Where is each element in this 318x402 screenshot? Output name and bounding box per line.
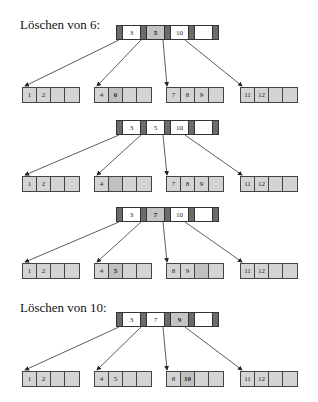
leaf-key: [137, 264, 151, 278]
leaf-key: 9: [195, 177, 209, 191]
leaf-key: [209, 372, 223, 386]
edge-arrow: [185, 222, 242, 262]
leaf-key: 1: [23, 372, 37, 386]
root-key: 9: [171, 313, 188, 326]
root-key: [195, 208, 212, 221]
leaf-key: [269, 372, 283, 386]
leaf-key: 12: [255, 177, 269, 191]
leaf-key: [109, 177, 123, 191]
root-key: 3: [123, 313, 140, 326]
leaf-key: 8: [167, 372, 181, 386]
root-key: 10: [171, 26, 188, 39]
leaf-key: 2: [37, 264, 51, 278]
leaf-node: 89: [166, 263, 224, 279]
leaf-node: 1112: [240, 263, 298, 279]
leaf-key: 4: [95, 88, 109, 102]
leaf-key: 9: [195, 88, 209, 102]
root-node: 3510: [116, 120, 219, 135]
leaf-key: [209, 177, 223, 191]
leaf-key: [283, 88, 297, 102]
child-pointer: [164, 208, 171, 221]
leaf-key: [65, 264, 79, 278]
root-key: 3: [123, 26, 140, 39]
root-key: [195, 121, 212, 134]
leaf-key: 1: [23, 264, 37, 278]
leaf-key: [123, 88, 137, 102]
leaf-key: 2: [37, 177, 51, 191]
child-pointer: [188, 208, 195, 221]
leaf-key: 7: [167, 177, 181, 191]
root-key: [195, 26, 212, 39]
child-pointer: [140, 208, 147, 221]
root-key: 10: [171, 121, 188, 134]
child-pointer: [140, 313, 147, 326]
leaf-key: [137, 177, 151, 191]
leaf-key: 7: [167, 88, 181, 102]
edge-arrow: [185, 40, 242, 86]
leaf-key: [283, 177, 297, 191]
child-pointer: [212, 208, 218, 221]
leaf-node: 45: [94, 263, 152, 279]
leaf-key: 12: [255, 88, 269, 102]
leaf-node: 12: [22, 371, 80, 387]
leaf-key: [137, 372, 151, 386]
leaf-key: 1: [23, 88, 37, 102]
leaf-key: [65, 177, 79, 191]
leaf-key: [51, 264, 65, 278]
leaf-key: [283, 264, 297, 278]
leaf-key: 11: [241, 88, 255, 102]
root-key: 7: [147, 208, 164, 221]
child-pointer: [212, 26, 218, 39]
leaf-key: 11: [241, 177, 255, 191]
leaf-node: 1112: [240, 176, 298, 192]
leaf-key: [65, 88, 79, 102]
root-key: 7: [147, 313, 164, 326]
edge-arrow: [185, 327, 242, 370]
edge-arrow: [97, 40, 141, 86]
child-pointer: [164, 26, 171, 39]
leaf-key: 8: [181, 88, 195, 102]
leaf-node: 12: [22, 263, 80, 279]
child-pointer: [164, 313, 171, 326]
edge-arrow: [163, 40, 167, 86]
leaf-key: 4: [95, 177, 109, 191]
leaf-key: 11: [241, 264, 255, 278]
leaf-node: 1112: [240, 87, 298, 103]
leaf-key: 1: [23, 177, 37, 191]
leaf-key: 4: [95, 372, 109, 386]
leaf-node: 12: [22, 87, 80, 103]
leaf-key: [65, 372, 79, 386]
leaf-node: 789: [166, 176, 224, 192]
root-key: 5: [147, 26, 164, 39]
leaf-key: 8: [181, 177, 195, 191]
root-node: 3710: [116, 207, 219, 222]
edge-arrow: [97, 222, 141, 262]
leaf-node: 810: [166, 371, 224, 387]
child-pointer: [212, 121, 218, 134]
child-pointer: [188, 313, 195, 326]
leaf-key: 11: [241, 372, 255, 386]
leaf-key: 4: [95, 264, 109, 278]
leaf-key: 12: [255, 372, 269, 386]
root-node: 379: [116, 312, 219, 327]
edge-arrow: [25, 327, 119, 370]
leaf-key: [51, 177, 65, 191]
leaf-node: 45: [94, 371, 152, 387]
tree-edges: [0, 0, 318, 402]
leaf-key: 9: [181, 264, 195, 278]
leaf-key: 6: [109, 88, 123, 102]
leaf-key: [269, 177, 283, 191]
leaf-key: 2: [37, 372, 51, 386]
leaf-key: 12: [255, 264, 269, 278]
edge-arrow: [25, 135, 119, 175]
leaf-key: [195, 264, 209, 278]
leaf-node: 789: [166, 87, 224, 103]
child-pointer: [212, 313, 218, 326]
leaf-node: 1112: [240, 371, 298, 387]
leaf-key: 2: [37, 88, 51, 102]
leaf-key: 5: [109, 372, 123, 386]
leaf-key: [209, 88, 223, 102]
leaf-node: 12: [22, 176, 80, 192]
leaf-key: 8: [167, 264, 181, 278]
child-pointer: [140, 121, 147, 134]
